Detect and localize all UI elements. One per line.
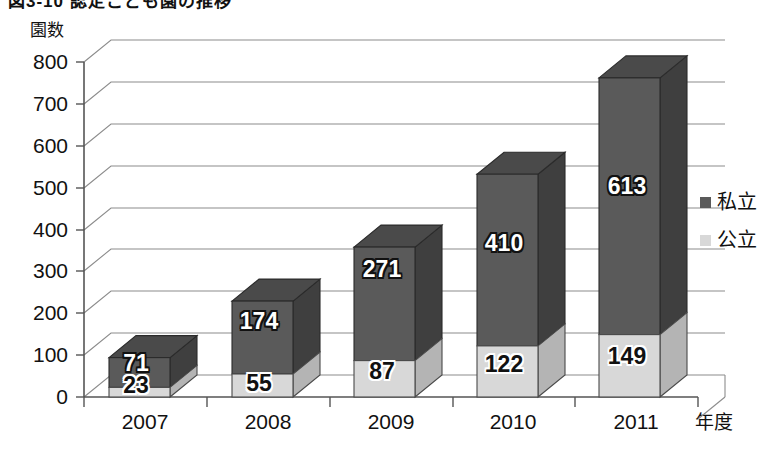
x-tick-label: 2011 bbox=[588, 411, 684, 432]
y-tick-label: 700 bbox=[4, 93, 68, 114]
x-tick-label: 2009 bbox=[343, 411, 439, 432]
data-label-public: 55 bbox=[216, 372, 302, 395]
x-tick-marks bbox=[84, 397, 698, 407]
y-tick-label: 500 bbox=[4, 177, 68, 198]
data-label-public: 87 bbox=[339, 360, 425, 383]
x-tick-label: 2010 bbox=[465, 411, 561, 432]
y-tick-label: 800 bbox=[4, 51, 68, 72]
y-tick-label: 400 bbox=[4, 219, 68, 240]
legend: 私立 公立 bbox=[700, 192, 757, 268]
legend-label-private: 私立 bbox=[717, 192, 757, 212]
data-label-public: 23 bbox=[93, 374, 179, 397]
chart-figure: 図3-10 認定こども園の推移 園数 年度 bbox=[0, 0, 770, 453]
data-label-private: 613 bbox=[584, 175, 670, 198]
y-tick-label: 100 bbox=[4, 344, 68, 365]
y-tick-label: 200 bbox=[4, 302, 68, 323]
data-label-private: 174 bbox=[216, 310, 302, 333]
legend-swatch-icon-public bbox=[700, 235, 711, 246]
legend-swatch-icon-private bbox=[700, 197, 711, 208]
y-tick-label: 0 bbox=[4, 386, 68, 407]
data-label-public: 122 bbox=[461, 353, 547, 376]
y-tick-label: 600 bbox=[4, 135, 68, 156]
data-label-private: 271 bbox=[339, 258, 425, 281]
y-tick-label: 300 bbox=[4, 260, 68, 281]
x-tick-label: 2008 bbox=[220, 411, 316, 432]
legend-item-private: 私立 bbox=[700, 192, 757, 212]
x-tick-label: 2007 bbox=[97, 411, 193, 432]
legend-label-public: 公立 bbox=[717, 230, 757, 250]
data-label-public: 149 bbox=[584, 345, 670, 368]
legend-item-public: 公立 bbox=[700, 230, 757, 250]
y-tick-marks bbox=[76, 62, 84, 397]
data-label-private: 410 bbox=[461, 232, 547, 255]
